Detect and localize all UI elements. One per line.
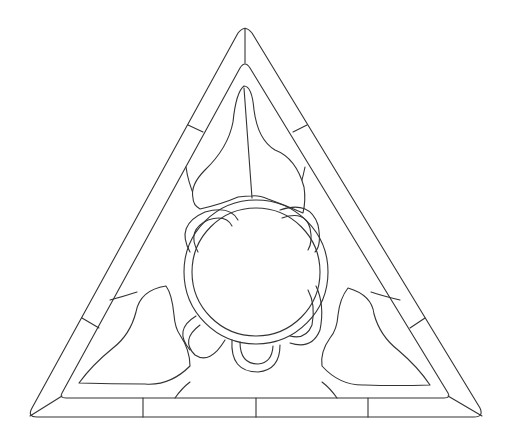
loop bbox=[240, 342, 273, 364]
lead-line bbox=[110, 292, 137, 300]
loop bbox=[194, 218, 232, 252]
stained-glass-pattern bbox=[0, 0, 505, 442]
loop bbox=[290, 290, 313, 337]
frame-bar bbox=[293, 125, 307, 132]
outer-triangle bbox=[30, 29, 481, 418]
lead-line bbox=[371, 292, 400, 300]
frame-bar bbox=[82, 318, 99, 328]
loop bbox=[232, 340, 280, 372]
loop bbox=[189, 325, 225, 358]
loop bbox=[185, 210, 238, 252]
lead-line bbox=[322, 382, 337, 398]
right-corner-joint bbox=[448, 396, 482, 416]
ring-inner bbox=[192, 208, 320, 336]
frame-bar bbox=[410, 318, 425, 328]
left-petal bbox=[79, 286, 190, 384]
left-corner-joint bbox=[30, 396, 62, 416]
frame-bar bbox=[188, 125, 203, 132]
loop bbox=[290, 286, 322, 345]
lead-line bbox=[175, 382, 190, 398]
